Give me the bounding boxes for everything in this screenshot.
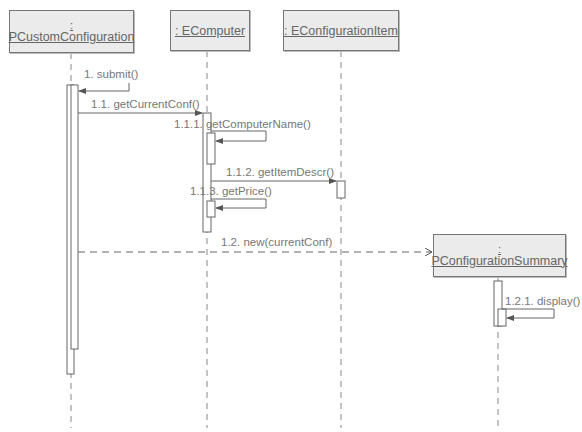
object-name: : EComputer [175, 24, 245, 38]
activation-pcc-inner [71, 85, 78, 349]
label-new-currentconf: 1.2. new(currentConf) [221, 236, 332, 248]
activation-ecomp-getprice [207, 201, 215, 217]
message-getprice [211, 199, 266, 208]
message-submit [79, 83, 129, 91]
object-name: PCustomConfiguration [9, 30, 135, 44]
object-econfigurationitem[interactable]: : EConfigurationItem [283, 10, 399, 51]
object-pcustomconfiguration[interactable]: : PCustomConfiguration [9, 10, 134, 53]
message-display [502, 309, 554, 318]
object-ecomputer[interactable]: : EComputer [170, 10, 250, 51]
label-submit: 1. submit() [84, 68, 138, 80]
label-getitemdescr: 1.1.2. getItemDescr() [226, 166, 334, 178]
object-name: PConfigurationSummary [431, 254, 567, 268]
activation-psum-display [498, 309, 506, 326]
object-colon: : [498, 244, 501, 254]
object-name: : EConfigurationItem [284, 24, 398, 38]
object-pconfigurationsummary[interactable]: : PConfigurationSummary [433, 234, 566, 277]
label-getcomputername: 1.1.1. getComputerName() [174, 118, 311, 130]
label-getprice: 1.1.3. getPrice() [190, 185, 272, 197]
message-getcomputername [211, 131, 266, 141]
label-getcurrentconf: 1.1. getCurrentConf() [91, 98, 200, 110]
diagram-canvas [0, 0, 582, 432]
activation-ecomp-getname [207, 133, 215, 164]
object-colon: : [70, 20, 73, 30]
label-display: 1.2.1. display() [505, 295, 580, 307]
activation-eitem [337, 181, 345, 198]
